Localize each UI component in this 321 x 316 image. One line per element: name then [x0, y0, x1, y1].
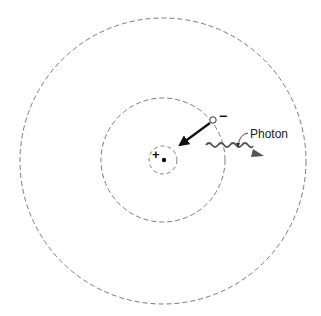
bohr-atom-diagram: + − Photon — [0, 0, 321, 316]
nucleus-dot — [162, 158, 166, 162]
photon-label: Photon — [250, 127, 288, 141]
electron-minus-sign: − — [219, 108, 227, 124]
photon-wave — [206, 143, 253, 147]
electron — [210, 117, 216, 123]
nucleus-plus-sign: + — [152, 147, 160, 162]
electron-transition-arrow — [180, 123, 210, 145]
photon-arrowhead — [251, 149, 264, 157]
